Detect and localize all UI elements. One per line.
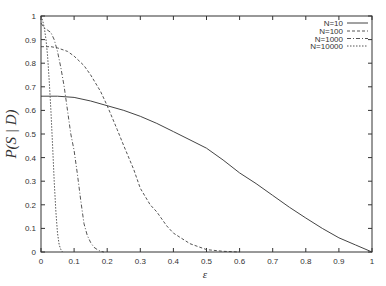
series-line-n-10 — [41, 96, 372, 252]
y-tick-label: 0.6 — [25, 106, 37, 115]
y-tick-label: 0.2 — [25, 201, 37, 210]
y-tick-label: 0.5 — [25, 130, 37, 139]
legend-label: N=10000 — [310, 42, 343, 51]
x-axis-ticks: 00.10.20.30.40.50.60.70.80.91 — [39, 16, 375, 266]
x-tick-label: 0.2 — [102, 257, 114, 266]
y-tick-label: 0.4 — [25, 154, 37, 163]
y-tick-label: 0.7 — [25, 83, 37, 92]
y-axis-label: P(S | D) — [3, 109, 20, 159]
y-tick-label: 0.3 — [25, 177, 37, 186]
x-axis-label: ε — [203, 268, 208, 280]
x-tick-label: 0.1 — [69, 257, 81, 266]
x-tick-label: 0.9 — [333, 257, 345, 266]
y-tick-label: 0.8 — [25, 59, 37, 68]
y-tick-label: 0.1 — [25, 224, 37, 233]
series-line-n-1000 — [41, 23, 104, 252]
y-tick-label: 1 — [32, 12, 37, 21]
x-tick-label: 1 — [370, 257, 375, 266]
x-tick-label: 0.5 — [201, 257, 213, 266]
x-tick-label: 0 — [39, 257, 44, 266]
x-tick-label: 0.6 — [234, 257, 246, 266]
x-tick-label: 0.4 — [168, 257, 180, 266]
series-layer — [41, 16, 372, 252]
chart-canvas: 00.10.20.30.40.50.60.70.80.91 00.10.20.3… — [0, 0, 386, 286]
plot-frame — [41, 16, 372, 252]
legend: N=10N=100N=1000N=10000 — [310, 19, 368, 51]
y-tick-label: 0 — [32, 248, 37, 257]
x-tick-label: 0.8 — [300, 257, 312, 266]
y-tick-label: 0.9 — [25, 36, 37, 45]
x-tick-label: 0.3 — [135, 257, 147, 266]
series-line-n-100 — [41, 47, 240, 252]
x-tick-label: 0.7 — [267, 257, 279, 266]
